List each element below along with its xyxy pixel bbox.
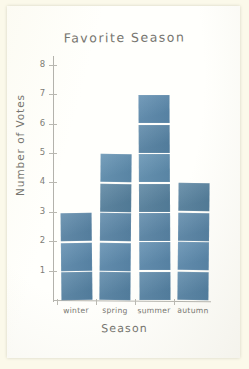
bar-unit-square [100, 184, 131, 212]
bar-unit-square [138, 96, 169, 124]
y-axis-tick [49, 212, 57, 213]
y-axis-tick-label-text: 8 [32, 60, 46, 69]
bar-summer [138, 94, 170, 300]
bar-unit-square [178, 184, 209, 212]
screenshot-root: Favorite Season Number of Votes Season 1… [0, 0, 249, 369]
bar-unit-square [139, 154, 170, 182]
bar-unit-square [100, 154, 131, 182]
bar-unit-square [177, 272, 208, 300]
y-axis-tick [49, 182, 57, 183]
bar-unit-square [99, 272, 130, 300]
bar-unit-square [139, 243, 170, 271]
y-axis-title: Number of Votes [14, 75, 26, 215]
x-axis-title: Season [0, 321, 249, 336]
y-axis-tick-label: 6 [32, 119, 46, 129]
y-axis-tick-label: 1 [32, 266, 46, 276]
x-axis-tick [57, 299, 58, 305]
bar-spring [99, 153, 131, 300]
y-axis-tick [49, 153, 57, 154]
bar-unit-square [177, 242, 208, 270]
y-axis-tick-label: 8 [32, 60, 46, 70]
x-axis-tick-label-autumn: autumn [168, 305, 218, 315]
y-axis-tick-label-text: 2 [32, 236, 46, 245]
x-axis-tick [174, 299, 175, 305]
chart-title: Favorite Season [0, 29, 249, 46]
y-axis-tick [49, 65, 57, 66]
bar-unit-square [178, 213, 209, 241]
x-axis-tick [96, 299, 97, 305]
y-axis-tick-label-text: 4 [32, 177, 46, 186]
y-axis-tick [49, 94, 57, 95]
y-axis-tick [49, 271, 57, 272]
y-axis-tick-label-text: 1 [32, 266, 46, 275]
y-axis-tick-label: 7 [32, 89, 46, 99]
bar-winter [61, 212, 92, 301]
y-axis-tick [49, 241, 57, 242]
y-axis-tick [49, 124, 57, 125]
bar-unit-square [61, 213, 92, 241]
bar-unit-square [139, 184, 170, 212]
y-axis-line [53, 56, 54, 302]
bar-unit-square [139, 213, 170, 241]
y-axis-tick-label: 5 [32, 148, 46, 158]
y-axis-tick-label: 3 [32, 207, 46, 217]
bar-autumn [177, 182, 209, 300]
bar-unit-square [61, 272, 92, 300]
bar-unit-square [99, 213, 130, 241]
bar-unit-square [139, 272, 170, 300]
x-axis-line [53, 300, 211, 302]
y-axis-tick-label-text: 6 [32, 119, 46, 128]
bar-chart: Favorite Season Number of Votes Season 1… [0, 0, 249, 369]
bar-unit-square [61, 242, 92, 270]
y-axis-tick-label: 2 [32, 236, 46, 246]
y-axis-tick-label: 4 [32, 177, 46, 187]
x-axis-tick [135, 299, 136, 305]
y-axis-tick-label-text: 7 [32, 89, 46, 98]
bar-unit-square [99, 242, 130, 270]
y-axis-tick-label-text: 5 [32, 148, 46, 157]
bar-unit-square [139, 125, 170, 153]
y-axis-tick-label-text: 3 [32, 207, 46, 216]
